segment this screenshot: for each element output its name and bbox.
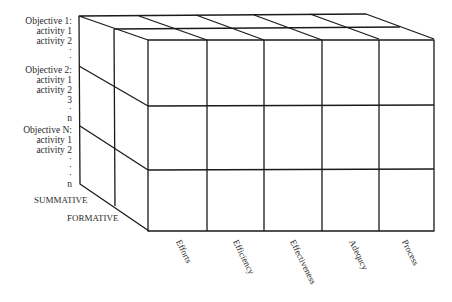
objective-2-title: Objective 2:	[25, 65, 72, 75]
objective-1-ellipsis-1: ·	[25, 46, 72, 54]
objective-n-activity-n: n	[23, 179, 72, 189]
objective-1-ellipsis-2: ·	[25, 54, 72, 62]
objective-n-title: Objective N:	[23, 125, 72, 135]
objective-n-activity-2: activity 2	[23, 145, 72, 155]
front-face	[148, 40, 434, 231]
objective-1-labels: Objective 1: activity 1 activity 2 · ·	[25, 16, 72, 62]
objective-n-activity-1: activity 1	[23, 135, 72, 145]
objective-1-activity-2: activity 2	[25, 36, 72, 46]
objective-n-labels: Objective N: activity 1 activity 2 · · ·…	[23, 125, 72, 189]
objective-2-activity-1: activity 1	[25, 75, 72, 85]
formative-label: FORMATIVE	[67, 213, 119, 223]
summative-label: SUMMATIVE	[34, 195, 88, 205]
objective-n-ellipsis-2: ·	[23, 163, 72, 171]
objective-n-ellipsis-3: ·	[23, 171, 72, 179]
objective-1-activity-1: activity 1	[25, 26, 72, 36]
objective-2-activity-3: 3	[25, 95, 72, 105]
objective-2-ellipsis: ·	[25, 105, 72, 113]
objective-2-activity-n: n	[25, 113, 72, 123]
objective-n-ellipsis-1: ·	[23, 155, 72, 163]
objective-1-title: Objective 1:	[25, 16, 72, 26]
objective-2-activity-2: activity 2	[25, 85, 72, 95]
objective-2-labels: Objective 2: activity 1 activity 2 3 · n	[25, 65, 72, 123]
